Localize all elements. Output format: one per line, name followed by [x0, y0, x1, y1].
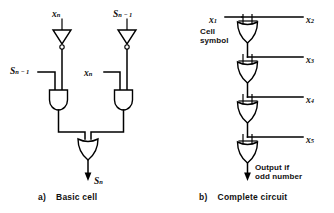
- cell-1: [238, 22, 258, 43]
- caption-panel-a: a) Basic cell: [38, 192, 97, 202]
- caption-b-letter: b): [199, 192, 207, 202]
- inverter-right: [118, 30, 136, 49]
- output-arrow-sn: [85, 173, 92, 182]
- cell-2: [238, 62, 258, 83]
- label-sn1-side-left: Sn − 1: [10, 60, 29, 78]
- label-output-odd-number: Output if odd number: [255, 163, 302, 181]
- wire-and-right-to-or: [91, 110, 124, 139]
- and-gate-left: [50, 90, 68, 110]
- or-gate-output: [78, 139, 98, 160]
- inverter-left: [53, 30, 71, 49]
- logic-circuit-figure: xn Sn − 1 Sn − 1 xn Sn a) Basic cell x1 …: [0, 0, 334, 213]
- cell-4: [238, 142, 258, 163]
- label-xn-top-left: xn: [52, 3, 60, 21]
- output-note-line-2: odd number: [255, 172, 302, 181]
- and-gate-right: [115, 90, 133, 110]
- output-arrow-odd: [244, 173, 251, 182]
- wire-xn-to-and-right: [104, 72, 120, 90]
- label-cell-symbol: Cell symbol: [200, 27, 229, 45]
- caption-a-letter: a): [38, 192, 46, 202]
- circuit-diagram-svg: [0, 0, 334, 213]
- cell-symbol-line-1: Cell: [200, 27, 229, 36]
- label-x3: x3: [306, 49, 314, 67]
- caption-b-text: Complete circuit: [218, 192, 288, 202]
- output-note-line-1: Output if: [255, 163, 302, 172]
- panel-b-complete-circuit: [225, 15, 303, 182]
- label-sn1-top-right: Sn − 1: [113, 3, 132, 21]
- label-x1: x1: [209, 9, 217, 27]
- label-x5: x5: [306, 129, 314, 147]
- wire-and-left-to-or: [59, 110, 86, 139]
- panel-a-basic-cell: [38, 19, 136, 181]
- wire-sn1-to-and-left: [38, 72, 55, 90]
- caption-a-text: Basic cell: [56, 192, 97, 202]
- label-x4: x4: [306, 89, 314, 107]
- label-xn-side-right: xn: [84, 62, 92, 80]
- label-output-sn: Sn: [94, 170, 103, 188]
- label-x2: x2: [306, 9, 314, 27]
- cell-symbol-line-2: symbol: [200, 36, 229, 45]
- caption-panel-b: b) Complete circuit: [199, 192, 287, 202]
- cell-3: [238, 102, 258, 123]
